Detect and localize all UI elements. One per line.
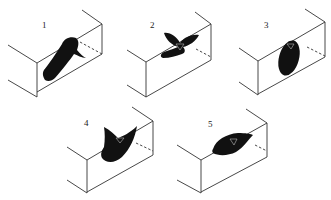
hidden-edge-4 [136,143,153,151]
panel-label-2: 2 [150,20,155,30]
panel-label-5: 5 [208,119,213,129]
panel-label-1: 1 [42,20,47,30]
blob-5 [212,133,253,155]
blob-4 [101,126,137,162]
panel-label-3: 3 [264,20,269,30]
diagram-canvas: 1 2 3 4 5 [0,0,331,200]
panel-2: 2 [127,12,211,97]
hidden-edge-5 [255,145,267,151]
blob-2 [161,33,199,58]
hidden-edge-3 [307,47,325,56]
panel-label-4: 4 [84,118,89,128]
panel-3: 3 [239,9,325,95]
panel-5: 5 [177,109,267,193]
blob-1 [43,37,86,81]
panel-1: 1 [8,10,102,97]
hidden-edge-1 [80,42,102,54]
hidden-edge-2 [196,49,211,57]
box-edges-1 [8,10,102,97]
panel-4: 4 [67,107,153,193]
